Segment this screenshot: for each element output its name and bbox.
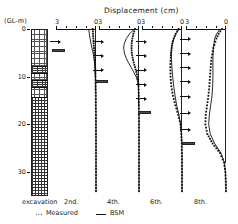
earth-pressure-arrow xyxy=(136,70,146,71)
x-minor-tick xyxy=(76,26,77,28)
soil-layer-divider xyxy=(32,80,47,81)
y-tick-label: 20 xyxy=(10,120,26,128)
soil-layer xyxy=(32,87,47,97)
measured-point xyxy=(133,33,135,35)
measured-point xyxy=(174,101,176,103)
measured-point xyxy=(131,47,133,49)
soil-layer xyxy=(32,73,47,80)
measured-point xyxy=(221,28,223,30)
strut-marker xyxy=(138,111,151,114)
measured-point xyxy=(94,52,96,54)
measured-point xyxy=(210,66,212,68)
figure-root: Displacement (cm) (GL-m) 0102030 excavat… xyxy=(0,0,238,224)
earth-pressure-arrow xyxy=(93,41,103,42)
measured-point xyxy=(209,82,211,84)
soil-layer-divider xyxy=(32,66,47,67)
measured-point xyxy=(217,35,219,37)
measured-point xyxy=(205,114,207,116)
strut-marker xyxy=(182,142,195,145)
earth-pressure-arrow xyxy=(180,67,190,68)
measured-point xyxy=(209,73,211,75)
measured-point xyxy=(218,33,220,35)
soil-layer xyxy=(32,30,47,66)
measured-point xyxy=(211,57,213,59)
y-tick-label: 30 xyxy=(10,168,26,176)
measured-point xyxy=(92,28,94,30)
measured-point xyxy=(170,79,172,81)
x-minor-tick xyxy=(196,26,197,28)
soil-layer xyxy=(32,66,47,73)
measured-point xyxy=(214,145,216,147)
measured-point xyxy=(131,52,133,54)
measured-point xyxy=(208,85,210,87)
curves xyxy=(186,29,238,202)
soil-profile-column xyxy=(31,29,48,196)
measured-point xyxy=(206,133,208,135)
measured-point xyxy=(134,28,136,30)
y-tick-mark xyxy=(27,172,30,173)
measured-point xyxy=(205,120,207,122)
soil-layer-divider xyxy=(32,87,47,88)
measured-point xyxy=(132,35,134,37)
measured-point xyxy=(133,30,135,32)
x-minor-tick xyxy=(206,26,207,28)
bsm-curve xyxy=(209,29,226,191)
measured-point xyxy=(93,42,95,44)
x-minor-tick xyxy=(216,26,217,28)
measured-point xyxy=(210,69,212,71)
bsm-marker-icon xyxy=(96,214,106,215)
earth-pressure-arrow xyxy=(50,41,60,42)
measured-point xyxy=(93,50,95,52)
earth-pressure-arrow xyxy=(180,53,190,54)
measured-point xyxy=(208,95,210,97)
earth-pressure-arrow xyxy=(136,98,146,99)
excavation-label: excavation xyxy=(22,198,57,206)
measured-point xyxy=(205,111,207,113)
strut-marker xyxy=(52,49,65,52)
soil-layer xyxy=(32,97,47,196)
earth-pressure-arrow xyxy=(180,81,190,82)
measured-point xyxy=(92,30,94,32)
measured-point xyxy=(219,30,221,32)
measured-point xyxy=(170,82,172,84)
measured-point xyxy=(131,40,133,42)
earth-pressure-arrow xyxy=(180,96,190,97)
measured-point xyxy=(170,73,172,75)
displacement-panel: 30 xyxy=(56,29,96,196)
measured-point xyxy=(209,79,211,81)
earth-pressure-arrow xyxy=(136,84,146,85)
measured-point xyxy=(172,95,174,97)
x-tick-label: 3 xyxy=(52,18,62,26)
measured-point xyxy=(208,89,210,91)
measured-point xyxy=(131,54,133,56)
measured-point xyxy=(174,104,176,106)
x-minor-tick xyxy=(119,26,120,28)
measured-point xyxy=(206,130,208,132)
y-tick-label: 10 xyxy=(10,73,26,81)
measured-point xyxy=(169,66,171,68)
x-tick-label: 3 xyxy=(138,18,148,26)
measured-point xyxy=(132,59,134,61)
displacement-panel: 30 xyxy=(99,29,139,196)
measured-point xyxy=(132,57,134,59)
y-tick-mark xyxy=(27,77,30,78)
x-tick-label: 0 xyxy=(221,18,231,26)
measured-point xyxy=(92,38,94,40)
measured-point xyxy=(133,62,135,64)
soil-layer xyxy=(32,80,47,87)
measured-point xyxy=(169,69,171,71)
earth-pressure-arrow xyxy=(93,55,103,56)
earth-pressure-arrow xyxy=(93,70,103,71)
measured-point xyxy=(92,35,94,37)
measured-point xyxy=(206,104,208,106)
measured-point xyxy=(210,63,212,65)
measured-point xyxy=(170,63,172,65)
earth-pressure-arrow xyxy=(180,39,190,40)
measured-point xyxy=(216,38,218,40)
y-tick-label: 0 xyxy=(10,25,26,33)
measured-point xyxy=(204,124,206,126)
measured-point xyxy=(173,98,175,100)
y-axis-label: (GL-m) xyxy=(4,17,27,25)
soil-layer-divider xyxy=(32,97,47,98)
earth-pressure-arrow xyxy=(136,41,146,42)
